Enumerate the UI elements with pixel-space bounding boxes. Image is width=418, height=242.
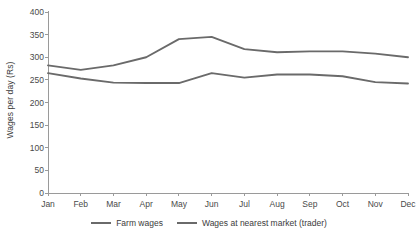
axes (45, 11, 408, 196)
x-axis-tick-label: Jan (41, 200, 55, 209)
x-axis-tick-label: Dec (400, 200, 415, 209)
wages-line-chart: Wages per day (Rs) 050100150200250300350… (0, 0, 418, 242)
series-line-1 (48, 73, 408, 83)
x-axis-tick-label: Aug (270, 200, 285, 209)
x-axis-tick-label: Mar (106, 200, 121, 209)
legend-line-swatch-icon (91, 222, 111, 224)
x-axis-tick-label: Nov (368, 200, 383, 209)
data-series-group (48, 37, 408, 84)
x-axis-tick-label: May (171, 200, 187, 209)
legend-item[interactable]: Farm wages (91, 219, 163, 228)
x-axis-tick-label: Apr (140, 200, 153, 209)
legend-item-label: Wages at nearest market (trader) (202, 219, 327, 228)
x-axis-tick-label: Oct (336, 200, 349, 209)
x-axis-tick-label: Feb (73, 200, 88, 209)
chart-legend: Farm wagesWages at nearest market (trade… (0, 219, 418, 228)
x-axis-tick-label: Jul (239, 200, 250, 209)
x-axis-tick-label: Jun (205, 200, 219, 209)
legend-item-label: Farm wages (116, 219, 163, 228)
legend-line-swatch-icon (177, 222, 197, 224)
series-line-2 (48, 37, 408, 70)
x-axis-tick-label: Sep (302, 200, 317, 209)
x-axis-tick-labels: JanFebMarAprMayJunJulAugSepOctNovDec (0, 196, 418, 212)
legend-item[interactable]: Wages at nearest market (trader) (177, 219, 327, 228)
